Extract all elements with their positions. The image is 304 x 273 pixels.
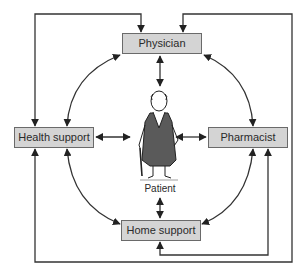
node-home-support: Home support	[121, 220, 201, 241]
care-network-diagram: Physician Health support Pharmacist Home…	[0, 0, 304, 273]
arc-health-home	[67, 149, 120, 224]
arc-pharmacist-home	[202, 149, 253, 224]
node-physician: Physician	[122, 33, 202, 54]
node-health-support: Health support	[14, 127, 94, 148]
arc-physician-pharmacist	[204, 55, 253, 126]
arc-physician-health	[67, 55, 120, 126]
outer-loop-left	[35, 14, 141, 126]
patient-label: Patient	[130, 183, 190, 194]
elderly-man-with-cane-icon	[139, 91, 178, 180]
node-pharmacist: Pharmacist	[208, 127, 288, 148]
